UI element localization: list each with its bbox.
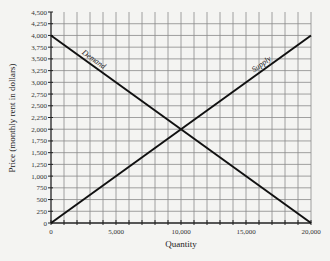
y-tick-label: 3,250 <box>31 67 47 75</box>
x-axis-tick-labels: 05,00010,00015,00020,000 <box>49 228 321 236</box>
y-tick-label: 2,000 <box>31 126 47 134</box>
grid-lines <box>51 12 311 223</box>
axes <box>48 12 311 225</box>
y-tick-label: 1,000 <box>31 173 47 181</box>
x-tick-label: 0 <box>49 228 53 236</box>
y-axis-title: Price (monthly rent in dollars) <box>7 64 17 173</box>
y-tick-label: 1,750 <box>31 137 47 145</box>
y-tick-label: 4,250 <box>31 20 47 28</box>
y-tick-label: 4,500 <box>31 9 47 17</box>
x-tick-label: 20,000 <box>301 228 321 236</box>
x-tick-label: 5,000 <box>108 228 124 236</box>
y-tick-label: 2,250 <box>31 114 47 122</box>
y-axis-tick-labels: 02505007501,0001,2501,5001,7502,0002,250… <box>31 9 47 228</box>
y-tick-label: 250 <box>37 208 48 216</box>
x-axis-title: Quantity <box>165 239 197 249</box>
y-tick-label: 1,250 <box>31 161 47 169</box>
y-tick-label: 750 <box>37 184 48 192</box>
x-tick-label: 15,000 <box>236 228 256 236</box>
y-tick-label: 1,500 <box>31 149 47 157</box>
y-tick-label: 2,500 <box>31 102 47 110</box>
supply-demand-chart: 02505007501,0001,2501,5001,7502,0002,250… <box>0 0 330 261</box>
y-tick-label: 4,000 <box>31 32 47 40</box>
y-tick-label: 0 <box>44 220 48 228</box>
y-tick-label: 500 <box>37 196 48 204</box>
y-tick-label: 3,000 <box>31 79 47 87</box>
y-tick-label: 2,750 <box>31 91 47 99</box>
y-tick-label: 3,750 <box>31 44 47 52</box>
y-tick-label: 3,500 <box>31 55 47 63</box>
x-tick-label: 10,000 <box>171 228 191 236</box>
